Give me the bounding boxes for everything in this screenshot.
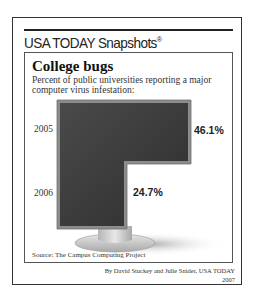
credit-authors: By David Stuckey and Julie Snider, USA T…	[105, 266, 235, 275]
value-label-2005: 46.1%	[194, 124, 224, 136]
credit-line: By David Stuckey and Julie Snider, USA T…	[105, 266, 235, 284]
value-label-2006: 24.7%	[133, 186, 163, 198]
category-label-2005: 2005	[34, 124, 53, 134]
credit-year: 2007	[105, 275, 235, 284]
source-note: Source: The Campus Computing Project	[32, 251, 145, 259]
monitor-screen	[60, 103, 188, 226]
category-label-2006: 2006	[34, 188, 53, 198]
monitor-bar-illustration	[0, 0, 257, 294]
